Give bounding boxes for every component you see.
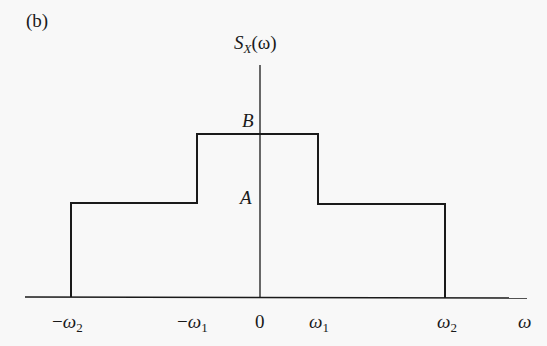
- level-label-a: A: [240, 188, 252, 207]
- level-label-b: B: [242, 111, 254, 130]
- spectrum-curve: [71, 134, 445, 298]
- panel-label: (b): [26, 11, 48, 30]
- y-axis-label: SX(ω): [234, 33, 277, 55]
- x-axis: [25, 297, 527, 298]
- x-axis-label: ω: [518, 312, 531, 331]
- tick-neg-omega1: −ω1: [177, 312, 208, 334]
- tick-zero: 0: [255, 312, 265, 331]
- tick-omega2: ω2: [437, 312, 457, 334]
- tick-neg-omega2: −ω2: [52, 312, 83, 334]
- tick-omega1: ω1: [309, 312, 329, 334]
